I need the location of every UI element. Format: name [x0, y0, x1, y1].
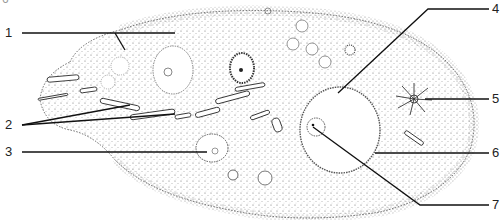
corner-mark: 6 [2, 0, 9, 6]
label-3: 3 [5, 145, 12, 158]
cell-diagram: 6 [0, 0, 504, 220]
label-4: 4 [492, 2, 499, 15]
label-5: 5 [492, 92, 499, 105]
label-1: 1 [5, 26, 12, 39]
cell-drawing [0, 0, 504, 220]
label-6: 6 [492, 146, 499, 159]
label-2: 2 [5, 118, 12, 131]
large-vacuole [300, 87, 380, 173]
label-7: 7 [492, 198, 499, 211]
